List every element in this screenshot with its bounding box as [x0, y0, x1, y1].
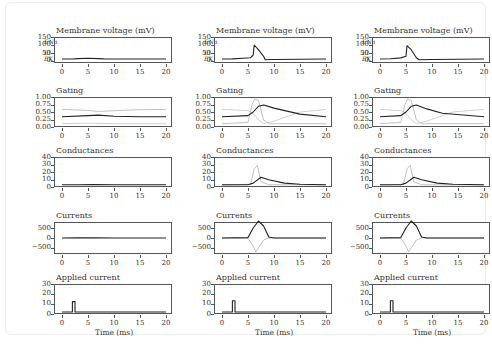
- plot-lines: [372, 284, 490, 314]
- y-tick-label: 0.25: [195, 116, 211, 123]
- x-tick: [432, 64, 433, 67]
- x-tick-label: 15: [296, 132, 305, 140]
- x-tick: [140, 315, 141, 318]
- y-tick-label: 0.00: [35, 124, 51, 131]
- x-tick: [380, 64, 381, 67]
- x-tick: [406, 64, 407, 67]
- series-INa: [380, 238, 484, 252]
- series-I_app: [222, 301, 326, 312]
- series-n: [62, 115, 166, 117]
- y-tick-label: 10: [360, 300, 369, 307]
- series-V: [380, 46, 484, 60]
- y-tick: [369, 314, 372, 315]
- y-tick-label: 30: [202, 281, 211, 288]
- x-tick: [484, 64, 485, 67]
- x-axis-title: Time (ms): [255, 328, 293, 337]
- y-tick-label: 0.75: [195, 101, 211, 108]
- y-tick-label: −500: [32, 244, 51, 251]
- x-tick-label: 5: [246, 132, 250, 140]
- x-tick-label: 20: [322, 132, 331, 140]
- x-tick-label: 20: [480, 192, 489, 200]
- x-tick-label: 15: [136, 319, 145, 327]
- subplot-title: Conductances: [56, 146, 113, 155]
- x-tick-label: 20: [162, 259, 171, 267]
- x-tick-label: 0: [60, 68, 64, 76]
- x-tick-label: 0: [378, 192, 382, 200]
- plot-lines: [372, 97, 490, 127]
- plot-lines: [54, 222, 172, 254]
- plot-lines: [214, 284, 332, 314]
- subplot-title: Currents: [216, 211, 252, 220]
- series-h: [380, 109, 484, 123]
- y-tick: [211, 187, 214, 188]
- plot-lines: [372, 157, 490, 187]
- subplot-title: Conductances: [374, 146, 431, 155]
- x-tick-label: 20: [322, 319, 331, 327]
- subplot-title: Gating: [216, 86, 243, 95]
- x-tick-label: 0: [220, 132, 224, 140]
- x-tick-label: 15: [454, 68, 463, 76]
- subplot-title: Membrane voltage (mV): [216, 26, 315, 35]
- x-tick-label: 5: [246, 68, 250, 76]
- plot-lines: [214, 37, 332, 63]
- subplot-title: Gating: [374, 86, 401, 95]
- x-tick-label: 20: [480, 68, 489, 76]
- x-tick: [484, 188, 485, 191]
- series-m: [62, 123, 166, 124]
- x-tick-label: 10: [110, 132, 119, 140]
- x-tick: [300, 315, 301, 318]
- x-tick: [222, 188, 223, 191]
- y-tick: [211, 127, 214, 128]
- reversal-potential-marker: EK: [44, 56, 53, 62]
- y-tick-label: 500: [198, 225, 211, 232]
- x-tick: [458, 128, 459, 131]
- y-tick-label: 20: [360, 290, 369, 297]
- x-tick-label: 15: [454, 192, 463, 200]
- x-tick: [248, 255, 249, 258]
- x-tick-label: 15: [296, 259, 305, 267]
- y-tick: [369, 127, 372, 128]
- x-tick: [166, 64, 167, 67]
- y-tick-label: 20: [42, 290, 51, 297]
- series-gNa: [222, 166, 326, 186]
- y-tick-label: 0.00: [195, 124, 211, 131]
- x-tick: [248, 315, 249, 318]
- x-tick-label: 5: [404, 319, 408, 327]
- x-tick: [140, 188, 141, 191]
- x-tick-label: 5: [404, 68, 408, 76]
- x-tick: [458, 188, 459, 191]
- y-tick: [211, 314, 214, 315]
- x-tick-label: 5: [86, 132, 90, 140]
- reversal-potential-marker: EK: [204, 56, 213, 62]
- y-tick-label: −500: [350, 244, 369, 251]
- x-tick: [406, 255, 407, 258]
- series-I_app: [62, 302, 166, 312]
- series-m: [380, 99, 484, 124]
- x-tick-label: 0: [220, 319, 224, 327]
- x-tick: [274, 255, 275, 258]
- x-tick-label: 10: [428, 192, 437, 200]
- x-tick: [88, 64, 89, 67]
- x-tick-label: 15: [296, 319, 305, 327]
- plot-lines: [214, 97, 332, 127]
- plot-lines: [54, 37, 172, 63]
- subplot-title: Conductances: [216, 146, 273, 155]
- x-tick: [484, 128, 485, 131]
- plot-lines: [372, 37, 490, 63]
- x-tick-label: 0: [378, 68, 382, 76]
- x-tick-label: 0: [378, 132, 382, 140]
- x-tick: [248, 64, 249, 67]
- x-tick-label: 10: [270, 68, 279, 76]
- x-tick-label: 15: [136, 68, 145, 76]
- series-gK: [222, 177, 326, 185]
- x-tick-label: 5: [246, 319, 250, 327]
- x-tick: [166, 315, 167, 318]
- x-tick: [62, 188, 63, 191]
- y-tick-label: 30: [202, 161, 211, 168]
- x-tick-label: 20: [162, 68, 171, 76]
- reversal-potential-marker: EK: [362, 56, 371, 62]
- x-tick: [166, 255, 167, 258]
- x-tick-label: 10: [270, 192, 279, 200]
- x-tick: [248, 128, 249, 131]
- x-tick-label: 0: [220, 259, 224, 267]
